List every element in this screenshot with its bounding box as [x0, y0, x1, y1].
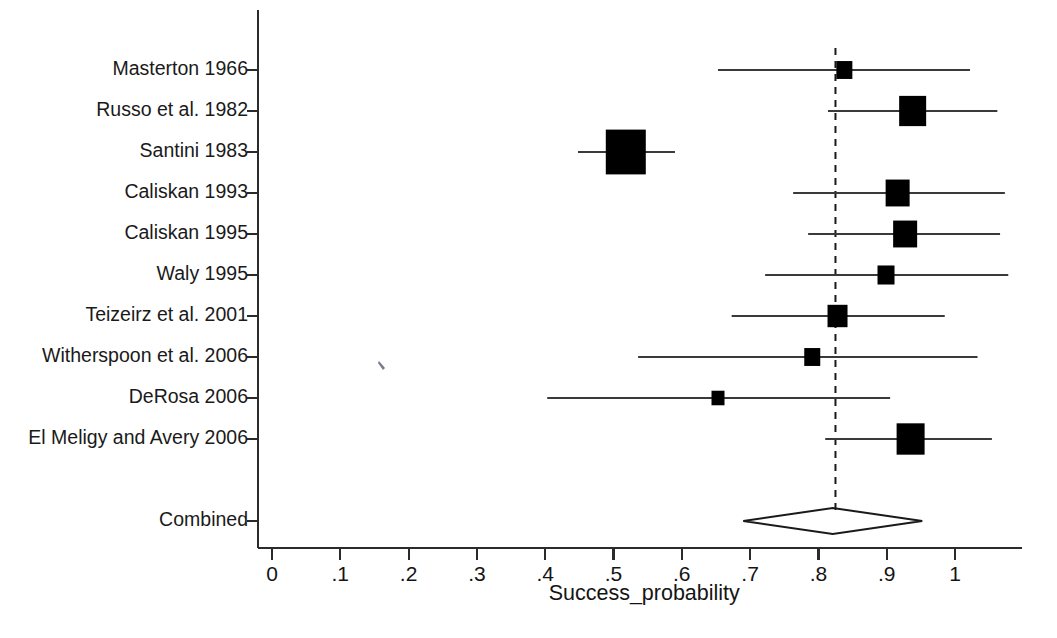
effect-estimate-marker: [886, 180, 910, 207]
forest-plot-canvas: Masterton 1966Russo et al. 1982Santini 1…: [0, 0, 1057, 638]
x-axis-tick-label: 0: [266, 562, 278, 585]
effect-estimate-marker: [897, 423, 925, 454]
study-label: Caliskan 1995: [124, 221, 248, 243]
study-row: [578, 130, 675, 175]
study-row: [825, 423, 992, 454]
forest-plot-figure: Masterton 1966Russo et al. 1982Santini 1…: [0, 0, 1057, 638]
x-axis-tick-label: .9: [878, 562, 896, 585]
combined-effect-diamond: [743, 508, 922, 534]
study-label: Masterton 1966: [112, 57, 248, 79]
effect-estimate-marker: [828, 305, 848, 327]
study-row: [732, 305, 945, 327]
study-row: [718, 61, 970, 79]
study-label: DeRosa 2006: [129, 385, 248, 407]
x-axis-tick-label: 1: [949, 562, 961, 585]
x-axis-tick-label: .2: [400, 562, 418, 585]
study-row: [808, 221, 1000, 248]
study-label: Teizeirz et al. 2001: [85, 303, 248, 325]
x-axis-ticks-group: 0.1.2.3.4.5.6.7.8.91: [266, 548, 961, 585]
study-rows-group: [547, 61, 1008, 534]
study-label: Waly 1995: [157, 262, 249, 284]
study-row: [793, 180, 1005, 207]
x-axis-title: Success_probability: [549, 581, 740, 605]
x-axis-tick-label: .3: [468, 562, 486, 585]
study-label: El Meligy and Avery 2006: [28, 426, 248, 448]
x-axis-title-group: Success_probability: [549, 581, 740, 605]
study-row: [638, 348, 977, 366]
study-label: Santini 1983: [140, 139, 248, 161]
x-axis-tick-label: .7: [741, 562, 759, 585]
axes-group: [247, 10, 1022, 548]
effect-estimate-marker: [711, 391, 724, 406]
study-label: Witherspoon et al. 2006: [42, 344, 248, 366]
combined-label: Combined: [159, 508, 248, 530]
scan-artifact-group: [378, 361, 385, 370]
effect-estimate-marker: [606, 130, 646, 175]
effect-estimate-marker: [899, 96, 926, 126]
study-row: [765, 265, 1008, 284]
effect-estimate-marker: [893, 221, 917, 248]
study-label: Russo et al. 1982: [96, 98, 248, 120]
effect-estimate-marker: [836, 61, 852, 79]
x-axis-tick-label: .1: [332, 562, 350, 585]
scan-speck: [378, 361, 385, 370]
study-row: [547, 391, 890, 406]
study-label: Caliskan 1993: [124, 180, 248, 202]
study-labels-group: Masterton 1966Russo et al. 1982Santini 1…: [28, 57, 248, 530]
x-axis-tick-label: .8: [810, 562, 828, 585]
study-row: [828, 96, 997, 126]
effect-estimate-marker: [878, 265, 895, 284]
effect-estimate-marker: [804, 348, 820, 366]
